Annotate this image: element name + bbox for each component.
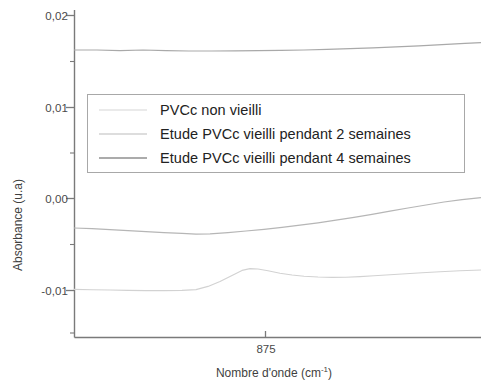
y-tick-label-neg-0-01: -0,01 [24,285,68,297]
y-tick-label-0-00: 0,00 [24,193,68,205]
legend-item-4-semaines: Etude PVCc vieilli pendant 4 semaines [88,146,464,170]
legend-label-2-semaines: Etude PVCc vieilli pendant 2 semaines [160,126,411,142]
x-axis-title-exponent: -1 [321,365,328,374]
legend-label-4-semaines: Etude PVCc vieilli pendant 4 semaines [160,150,411,166]
axis-spines [75,10,481,338]
y-tick-label-0-02: 0,02 [24,10,68,22]
x-axis-title-base: Nombre d'onde (cm [216,366,321,380]
y-axis-title: Absorbance (u.a) [11,130,25,320]
series-line-4-semaines [74,43,481,51]
x-tick-label-875: 875 [256,343,275,355]
series-line-non-vieilli [74,269,481,291]
legend-swatch-line-icon-4-semaines [97,146,149,170]
legend-swatch-line-icon-2-semaines [97,122,149,146]
chart-legend: PVCc non vieilli Etude PVCc vieilli pend… [87,94,465,173]
legend-item-non-vieilli: PVCc non vieilli [88,98,464,122]
legend-swatch-line-icon-non-vieilli [97,98,149,122]
series-line-2-semaines [74,198,481,235]
absorbance-spectrum-plot [0,0,481,387]
legend-label-non-vieilli: PVCc non vieilli [160,102,262,118]
y-tick-label-0-01: 0,01 [24,102,68,114]
x-axis-title-close: ) [328,366,332,380]
chart-figure: 0,02 0,01 0,00 -0,01 875 Absorbance (u.a… [0,0,481,387]
x-axis-title: Nombre d'onde (cm-1) [74,366,474,380]
legend-item-2-semaines: Etude PVCc vieilli pendant 2 semaines [88,122,464,146]
